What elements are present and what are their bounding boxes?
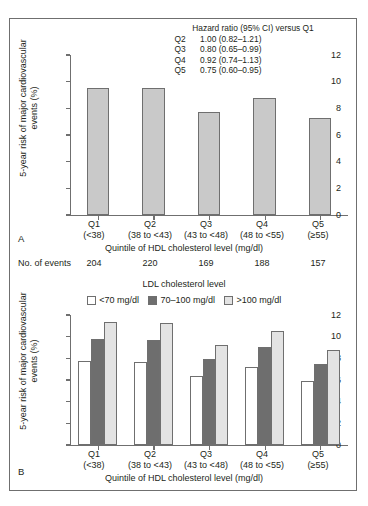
panel-b-x-axis-title: Quintile of HDL cholesterol level (mg/dl…	[10, 473, 358, 483]
legend-item-70to100[interactable]: 70–100 mg/dl	[148, 295, 215, 305]
bar	[160, 323, 173, 445]
bar	[314, 364, 327, 445]
panel-b-plot-area: 024681012	[70, 315, 348, 445]
bar	[327, 350, 340, 445]
hazard-ratio-group: Q2	[160, 34, 200, 45]
panel-a-xtick-q4: Q4 (48 to <55)	[233, 219, 291, 241]
y-tick	[66, 161, 71, 162]
figure-container: A 5-year risk of major cardiovascular ev…	[9, 18, 357, 491]
y-tick	[66, 108, 71, 109]
legend-label-lt70: <70 mg/dl	[99, 295, 139, 305]
panel-b-xtick-q2: Q2 (38 to <43)	[121, 449, 179, 471]
legend-swatch-gt100	[224, 296, 233, 305]
y-tick	[66, 81, 71, 82]
legend-label-70to100: 70–100 mg/dl	[160, 295, 215, 305]
panel-a-y-axis	[70, 55, 71, 215]
y-tick-label: 12	[317, 51, 341, 60]
y-tick	[66, 54, 71, 55]
panel-b: B LDL cholesterol level <70 mg/dl 70–100…	[10, 265, 358, 492]
legend-swatch-lt70	[87, 296, 96, 305]
panel-a-xtick-q3: Q3 (43 to <48)	[177, 219, 235, 241]
legend-item-gt100[interactable]: >100 mg/dl	[224, 295, 281, 305]
y-tick	[66, 134, 71, 135]
panel-a: A 5-year risk of major cardiovascular ev…	[10, 19, 358, 265]
bar	[198, 112, 220, 215]
panel-b-xtick-q3: Q3 (43 to <48)	[177, 449, 235, 471]
panel-b-legend: <70 mg/dl 70–100 mg/dl >100 mg/dl	[10, 295, 358, 305]
legend-label-gt100: >100 mg/dl	[237, 295, 282, 305]
y-tick	[66, 188, 71, 189]
bar	[301, 381, 314, 445]
bar	[87, 88, 109, 215]
legend-swatch-70to100	[148, 296, 157, 305]
y-tick	[66, 336, 71, 337]
panel-a-y-axis-label: 5-year risk of major cardiovascular even…	[18, 33, 40, 183]
bar	[190, 376, 203, 445]
bar	[215, 345, 228, 445]
bar	[142, 88, 164, 215]
bar	[78, 361, 91, 446]
bar	[253, 98, 275, 215]
y-tick	[66, 214, 71, 215]
bar	[309, 118, 331, 215]
panel-b-legend-title: LDL cholesterol level	[10, 279, 358, 289]
panel-b-xtick-q1: Q1 (<38)	[65, 449, 123, 471]
bar	[134, 362, 147, 445]
y-tick-label: 10	[317, 332, 341, 341]
bar	[147, 340, 160, 445]
panel-a-xtick-q1: Q1 (<38)	[65, 219, 123, 241]
y-tick	[66, 379, 71, 380]
hazard-ratio-value: 1.00 (0.82–1.21)	[200, 34, 346, 45]
bar	[104, 322, 117, 446]
y-tick	[66, 423, 71, 424]
panel-b-xtick-q4: Q4 (48 to <55)	[233, 449, 291, 471]
hazard-ratio-group: Q3	[160, 44, 200, 55]
y-tick	[66, 358, 71, 359]
panel-b-y-axis-label: 5-year risk of major cardiovascular even…	[18, 286, 40, 436]
y-tick	[66, 444, 71, 445]
bar	[203, 359, 216, 445]
y-tick-label: 8	[317, 104, 341, 113]
bar	[91, 339, 104, 445]
y-tick	[66, 401, 71, 402]
panel-a-xtick-q2: Q2 (38 to <43)	[121, 219, 179, 241]
bar	[258, 347, 271, 445]
y-tick-label: 10	[317, 77, 341, 86]
bar	[245, 367, 258, 445]
bar	[271, 331, 284, 445]
hazard-ratio-title: Hazard ratio (95% CI) versus Q1	[160, 23, 346, 34]
panel-a-xtick-q5: Q5 (≥55)	[289, 219, 347, 241]
panel-a-plot-area: 024681012	[70, 55, 348, 215]
panel-b-y-axis	[70, 315, 71, 445]
y-tick	[66, 314, 71, 315]
y-tick-label: 12	[317, 311, 341, 320]
panel-a-x-axis-title: Quintile of HDL cholesterol level (mg/dl…	[10, 243, 358, 253]
panel-b-xtick-q5: Q5 (≥55)	[289, 449, 347, 471]
hazard-ratio-row: Q2 1.00 (0.82–1.21)	[160, 34, 346, 45]
legend-item-lt70[interactable]: <70 mg/dl	[87, 295, 139, 305]
